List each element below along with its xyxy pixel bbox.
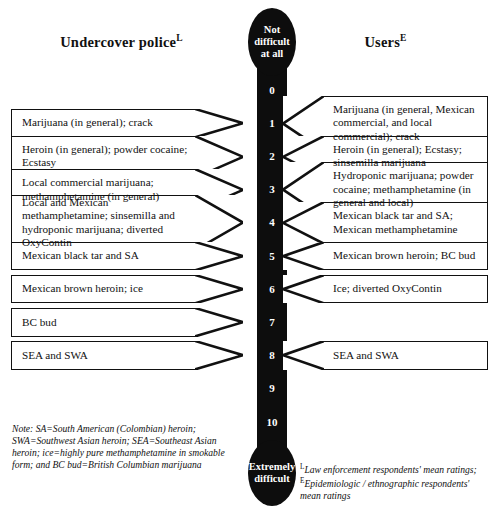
callout-label: Local and Mexican methamphetamine; sinse… bbox=[11, 196, 243, 250]
callout-right-level-6[interactable]: Ice; diverted OxyContin bbox=[283, 275, 488, 303]
scale-bottom-label-line-1: Extremely bbox=[249, 461, 295, 473]
callout-label: Ice; diverted OxyContin bbox=[283, 282, 450, 295]
callout-label: Mexican black tar and SA; Mexican metham… bbox=[283, 209, 488, 236]
callout-right-level-8[interactable]: SEA and SWA bbox=[283, 341, 488, 369]
scale-tick-10: 10 bbox=[248, 417, 296, 428]
scale-bottom-label-line-2: difficult bbox=[249, 473, 295, 485]
scale-top-label-line-3: at all bbox=[254, 48, 290, 60]
callout-left-level-8[interactable]: SEA and SWA bbox=[11, 341, 243, 369]
arrow-right-icon bbox=[195, 275, 243, 303]
callout-label: Heroin (in general); Ecstasy; sinsemilla… bbox=[283, 143, 488, 170]
arrow-right-icon bbox=[195, 341, 243, 369]
callout-label: Mexican black tar and SA bbox=[11, 249, 191, 262]
scale-top-label-line-2: difficult bbox=[254, 36, 290, 48]
scale-tick-0: 0 bbox=[248, 85, 296, 96]
column-header-right-label: Users bbox=[364, 34, 400, 50]
callout-label: Marijuana (in general, Mexican commercia… bbox=[283, 103, 488, 143]
figure-root: Undercover policeL UsersE Not difficult … bbox=[0, 0, 498, 520]
column-header-right-superscript: E bbox=[400, 33, 407, 43]
arrow-right-icon bbox=[195, 308, 243, 336]
callout-left-level-4[interactable]: Local and Mexican methamphetamine; sinse… bbox=[11, 195, 243, 250]
footnote-left: Note: SA=South American (Colombian) hero… bbox=[12, 423, 238, 471]
callout-left-level-6[interactable]: Mexican brown heroin; ice bbox=[11, 275, 243, 303]
scale-top-bulb: Not difficult at all bbox=[248, 8, 296, 76]
callout-left-level-1[interactable]: Marijuana (in general); crack bbox=[11, 109, 243, 137]
callout-left-level-7[interactable]: BC bud bbox=[11, 308, 243, 336]
column-header-left-superscript: L bbox=[176, 33, 183, 43]
footnote-right-part-2: Epidemiologic / ethnographic respondents… bbox=[300, 478, 469, 501]
callout-label: SEA and SWA bbox=[283, 349, 407, 362]
callout-label: SEA and SWA bbox=[11, 349, 140, 362]
callout-label: Hydroponic marijuana; powder cocaine; me… bbox=[283, 169, 488, 209]
callout-label: Heroin (in general); powder cocaine; Ecs… bbox=[11, 143, 243, 170]
scale-tick-9: 9 bbox=[248, 383, 296, 394]
callout-label: Mexican brown heroin; BC bud bbox=[283, 249, 483, 262]
callout-label: Marijuana (in general); crack bbox=[11, 116, 205, 129]
callout-right-level-5[interactable]: Mexican brown heroin; BC bud bbox=[283, 242, 488, 270]
column-header-right: UsersE bbox=[283, 33, 488, 51]
scale-tick-7: 7 bbox=[248, 317, 296, 328]
callout-label: BC bud bbox=[11, 316, 109, 329]
scale-top-label-line-1: Not bbox=[254, 24, 290, 36]
column-header-left: Undercover policeL bbox=[0, 33, 243, 51]
footnote-right: LLaw enforcement respondents' mean ratin… bbox=[300, 462, 492, 502]
column-header-left-label: Undercover police bbox=[60, 34, 176, 50]
scale-bottom-bulb: Extremely difficult bbox=[248, 440, 296, 506]
callout-label: Mexican brown heroin; ice bbox=[11, 282, 195, 295]
footnote-right-part-1: Law enforcement respondents' mean rating… bbox=[304, 464, 476, 475]
